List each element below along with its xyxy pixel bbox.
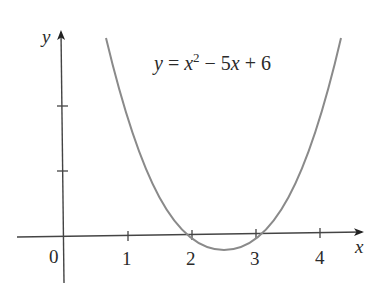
x-tick-label-4: 4 xyxy=(315,247,325,268)
x-tick-label-1: 1 xyxy=(122,248,132,269)
x-tick-label-2: 2 xyxy=(186,248,196,269)
x-tick-label-0: 0 xyxy=(49,246,59,267)
parabola-graph: 0 1 2 3 4 x y y = x2 − 5x + 6 xyxy=(0,0,381,305)
equation-label: y = x2 − 5x + 6 xyxy=(152,50,271,75)
y-axis xyxy=(61,32,64,283)
x-tick-label-3: 3 xyxy=(250,248,260,269)
y-axis-label: y xyxy=(40,26,51,47)
x-axis-label: x xyxy=(354,236,364,257)
